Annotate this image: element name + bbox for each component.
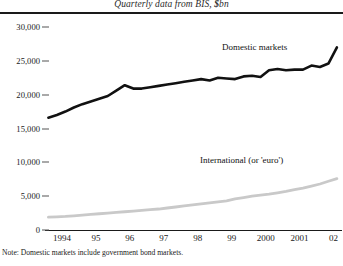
y-axis-tick-mark <box>42 27 49 28</box>
chart-figure: Quarterly data from BIS, $bn 05,00010,00… <box>0 0 343 266</box>
y-axis-tick-label: 25,000 <box>0 56 40 66</box>
y-axis-tick-label: 10,000 <box>0 157 40 167</box>
x-axis-line <box>45 230 342 231</box>
y-axis-tick-mark <box>42 230 49 231</box>
chart-footnote: Note: Domestic markets include governmen… <box>2 248 183 257</box>
series-line <box>48 179 337 218</box>
x-axis-tick-label: 95 <box>91 233 100 243</box>
x-axis-tick-label: 1994 <box>53 233 71 243</box>
series-label-international: International (or 'euro') <box>200 155 283 165</box>
y-axis-tick-mark <box>42 94 49 95</box>
x-axis-tick-label: 98 <box>193 233 202 243</box>
y-axis-tick-label: 15,000 <box>0 124 40 134</box>
y-axis-tick-mark <box>42 162 49 163</box>
y-axis-tick-label: 5,000 <box>0 191 40 201</box>
y-axis-tick-mark <box>42 128 49 129</box>
series-line <box>48 47 337 117</box>
x-axis-tick-label: 2000 <box>257 233 275 243</box>
y-axis-tick-mark <box>42 196 49 197</box>
x-axis-tick-label: 96 <box>125 233 134 243</box>
x-axis-tick-label: 99 <box>227 233 236 243</box>
plot-area: 05,00010,00015,00020,00025,00030,0001994… <box>0 0 343 266</box>
series-label-domestic: Domestic markets <box>222 42 287 52</box>
y-axis-tick-label: 0 <box>0 225 40 235</box>
x-axis-tick-label: 2001 <box>291 233 309 243</box>
x-axis-tick-label: 97 <box>159 233 168 243</box>
chart-canvas <box>0 0 343 266</box>
x-axis-tick-label: 02 <box>329 233 338 243</box>
y-axis-tick-mark <box>42 60 49 61</box>
y-axis-tick-label: 30,000 <box>0 22 40 32</box>
y-axis-tick-label: 20,000 <box>0 90 40 100</box>
